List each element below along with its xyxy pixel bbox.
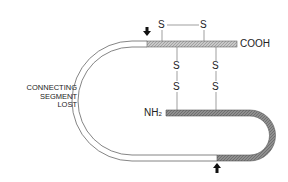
sulfur-label: S [173, 82, 180, 92]
a-chain [147, 41, 237, 47]
nh2-terminus-label: NH2 [144, 108, 162, 118]
cleavage-arrow-top-icon [143, 27, 151, 36]
intrachain-disulfide [162, 25, 204, 41]
sulfur-label: S [158, 20, 165, 30]
proinsulin-diagram: S S S S S S COOH NH2 CONNECTING SEGMENT … [0, 0, 288, 182]
sulfur-label: S [200, 20, 207, 30]
connecting-segment-lost-label: CONNECTING SEGMENT LOST [27, 84, 77, 110]
interchain-disulfides [177, 47, 216, 110]
cleavage-arrow-bottom-icon [213, 163, 221, 173]
sulfur-label: S [212, 61, 219, 71]
connecting-segment [72, 41, 217, 161]
sulfur-label: S [173, 61, 180, 71]
sulfur-label: S [212, 82, 219, 92]
cooh-terminus-label: COOH [240, 39, 270, 49]
b-chain [166, 110, 276, 161]
